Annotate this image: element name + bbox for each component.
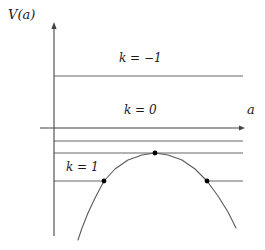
y-axis-label: V(a) (8, 8, 35, 21)
potential-curve (78, 153, 236, 240)
level-label-k-one: k = 1 (66, 161, 99, 173)
marked-point-dot (205, 179, 210, 184)
marked-point-dot (102, 179, 107, 184)
plot-canvas (0, 0, 265, 250)
x-axis-label: a (247, 103, 255, 116)
level-label-k-negative-one: k = −1 (119, 52, 162, 64)
x-axis-arrowhead (239, 125, 245, 130)
potential-diagram-figure: V(a) a k = −1 k = 0 k = 1 (0, 0, 265, 250)
level-label-k-zero: k = 0 (124, 104, 157, 116)
marked-point-dot (153, 151, 158, 156)
y-axis-arrowhead (51, 22, 56, 29)
potential-curve-group (78, 153, 236, 240)
